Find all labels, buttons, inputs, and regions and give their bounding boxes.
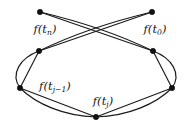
label-f-tj-1-subscript: j−1: [53, 85, 67, 94]
label-f-tj-base: f(t: [93, 94, 107, 108]
label-f-tj-1-base: f(t: [39, 79, 53, 93]
label-f-t0-base: f(t: [143, 22, 157, 36]
graph-figure: f(tn) f(t0) f(tj−1) f(tj): [0, 0, 192, 130]
label-f-t0-close: ): [162, 22, 167, 36]
edge-mid-left-to-low-left-straight: [20, 51, 39, 88]
label-f-tn-subscript: n: [47, 28, 52, 37]
label-f-tj-subscript: j: [106, 100, 108, 109]
label-f-tn-close: ): [52, 22, 57, 36]
node-f-tj: [93, 114, 98, 119]
label-f-tn-base: f(t: [33, 22, 47, 36]
node-f-tj-1: [17, 85, 22, 90]
label-f-t0: f(t0): [143, 24, 166, 36]
node-f-t0: [149, 9, 154, 14]
graph-canvas: [0, 0, 192, 130]
label-f-tn: f(tn): [33, 24, 56, 36]
edge-mid-right-to-low-right-straight: [153, 51, 172, 88]
node-f-tn: [37, 9, 42, 14]
label-f-tj: f(tj): [93, 96, 114, 108]
label-f-tj-close: ): [109, 94, 114, 108]
label-f-t0-subscript: 0: [157, 28, 162, 37]
node-mid-right: [150, 48, 155, 53]
node-low-right: [169, 85, 174, 90]
label-f-tj-1: f(tj−1): [39, 81, 71, 93]
node-mid-left: [36, 48, 41, 53]
label-f-tj-1-close: ): [66, 79, 71, 93]
